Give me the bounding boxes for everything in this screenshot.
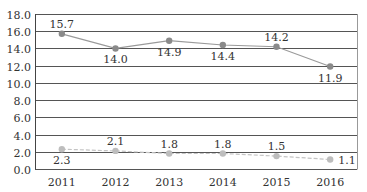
data-point <box>327 63 333 69</box>
series-line <box>62 34 330 67</box>
data-point <box>327 156 333 162</box>
y-tick-label: 18.0 <box>7 9 32 22</box>
data-label: 1.8 <box>160 138 178 151</box>
y-tick-label: 8.0 <box>14 95 32 108</box>
data-labels: 15.714.014.914.414.211.92.32.11.81.81.51… <box>50 18 356 167</box>
data-point <box>220 42 226 48</box>
data-label: 1.1 <box>338 154 356 167</box>
x-tick-label: 2015 <box>263 176 291 189</box>
data-point <box>220 150 226 156</box>
data-label: 1.8 <box>214 138 232 151</box>
data-point <box>112 148 118 154</box>
data-label: 15.7 <box>50 18 75 31</box>
y-tick-label: 14.0 <box>7 43 32 56</box>
y-tick-label: 12.0 <box>7 61 32 74</box>
x-tick-label: 2011 <box>48 176 76 189</box>
data-label: 2.3 <box>53 154 71 167</box>
y-tick-label: 16.0 <box>7 26 32 39</box>
y-tick-label: 0.0 <box>14 164 32 177</box>
data-label: 2.1 <box>107 135 125 148</box>
data-label: 14.9 <box>157 46 182 59</box>
x-tick-label: 2012 <box>102 176 130 189</box>
data-point <box>273 153 279 159</box>
data-label: 11.9 <box>318 72 343 85</box>
x-tick-label: 2014 <box>209 176 237 189</box>
line-chart: 0.02.04.06.08.010.012.014.016.018.0 2011… <box>0 0 367 192</box>
series-group <box>59 31 334 163</box>
gridlines <box>35 15 357 170</box>
data-point <box>59 146 65 152</box>
data-label: 14.0 <box>103 53 128 66</box>
x-tick-label: 2016 <box>316 176 344 189</box>
data-point <box>166 37 172 43</box>
y-tick-label: 10.0 <box>7 78 32 91</box>
y-tick-label: 6.0 <box>14 112 32 125</box>
series-line <box>62 149 330 159</box>
data-point <box>273 44 279 50</box>
x-tick-label: 2013 <box>155 176 183 189</box>
x-axis: 201120122013201420152016 <box>48 176 344 189</box>
y-tick-label: 4.0 <box>14 130 32 143</box>
data-label: 14.4 <box>211 50 236 63</box>
data-point <box>112 45 118 51</box>
data-point <box>59 31 65 37</box>
data-label: 1.5 <box>268 140 286 153</box>
data-label: 14.2 <box>264 31 289 44</box>
data-point <box>166 150 172 156</box>
y-tick-label: 2.0 <box>14 147 32 160</box>
